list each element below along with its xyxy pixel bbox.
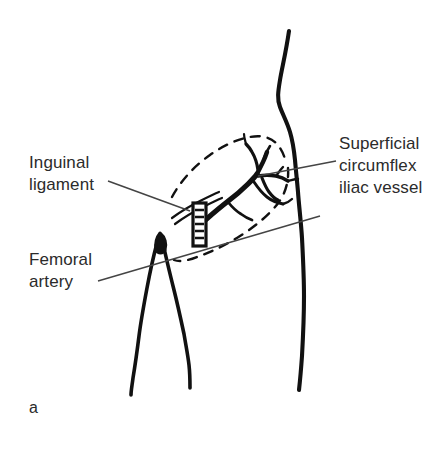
vessel-branch-ascending (246, 144, 258, 170)
leader-femoral-artery (98, 216, 320, 281)
vessel-twig-b (283, 199, 292, 204)
label-superficial-circumflex-iliac-vessel: Superficial circumflex iliac vessel (339, 133, 422, 198)
vessel-main-trunk (203, 174, 257, 222)
leader-lines (98, 161, 336, 281)
label-inguinal-ligament: Inguinal ligament (29, 152, 94, 196)
left-leg-outer-outline (163, 243, 190, 388)
label-femoral-artery: Femoral artery (29, 249, 92, 293)
vessel-tree (203, 134, 298, 222)
femoral-artery-mark (156, 233, 166, 253)
torso-outline (278, 31, 304, 390)
figure-drawing (0, 0, 447, 453)
leader-inguinal-ligament (108, 181, 190, 211)
panel-letter: a (29, 400, 38, 416)
vessel-branch-proximal (228, 202, 252, 220)
vessel-twig-d (244, 134, 246, 144)
anatomical-figure: Inguinal ligament Femoral artery Superfi… (0, 0, 447, 453)
surgical-clip (193, 203, 206, 246)
left-leg-outline (131, 243, 157, 395)
